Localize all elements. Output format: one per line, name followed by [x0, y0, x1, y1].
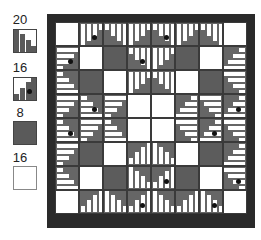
dark-block	[199, 142, 223, 166]
striped-block	[55, 142, 79, 166]
striped-block	[127, 70, 151, 94]
dot-icon	[236, 107, 241, 112]
striped-block	[55, 70, 79, 94]
dot-icon	[140, 203, 145, 208]
striped-block	[223, 94, 247, 118]
white-block	[55, 22, 79, 46]
striped-block	[127, 190, 151, 214]
striped-block	[55, 166, 79, 190]
white-block	[79, 166, 103, 190]
dot-icon	[68, 131, 73, 136]
white-block	[103, 142, 127, 166]
striped-block	[79, 94, 103, 118]
striped-block	[55, 118, 79, 142]
striped-block	[103, 190, 127, 214]
striped-block	[175, 190, 199, 214]
white-block	[199, 166, 223, 190]
white-block	[127, 118, 151, 142]
white-block	[175, 70, 199, 94]
striped-block	[175, 22, 199, 46]
striped-block	[55, 94, 79, 118]
striped-block	[103, 118, 127, 142]
dark-block	[175, 166, 199, 190]
dot-icon	[212, 131, 217, 136]
striped-block	[127, 46, 151, 70]
dot-icon	[236, 179, 241, 184]
dark-block	[103, 46, 127, 70]
white-block	[175, 142, 199, 166]
striped-block	[175, 118, 199, 142]
striped-block	[199, 94, 223, 118]
legend-label-20: 20	[0, 12, 40, 27]
striped-block	[223, 118, 247, 142]
dot-icon	[92, 35, 97, 40]
striped-block	[223, 166, 247, 190]
striped-block	[223, 46, 247, 70]
legend-label-16-white: 16	[0, 150, 40, 165]
striped-block	[79, 190, 103, 214]
striped-block	[151, 166, 175, 190]
quilt-grid	[55, 22, 247, 214]
white-block	[151, 94, 175, 118]
striped-block	[55, 46, 79, 70]
striped-block	[151, 46, 175, 70]
striped-block	[151, 190, 175, 214]
striped-block	[199, 190, 223, 214]
white-block	[151, 118, 175, 142]
dot-icon	[92, 107, 97, 112]
striped-block	[175, 94, 199, 118]
legend-swatch-striped-16	[13, 77, 37, 101]
striped-block	[151, 22, 175, 46]
striped-block	[199, 118, 223, 142]
white-block	[223, 22, 247, 46]
dark-block	[199, 70, 223, 94]
white-block	[127, 94, 151, 118]
striped-block	[127, 22, 151, 46]
dot-icon	[140, 59, 145, 64]
dot-icon	[68, 59, 73, 64]
legend-label-16-striped: 16	[0, 60, 40, 75]
dot-icon	[164, 179, 169, 184]
dark-block	[103, 166, 127, 190]
legend-dot-icon	[27, 89, 32, 94]
striped-block	[103, 22, 127, 46]
legend: 20 16 8 16	[0, 0, 46, 240]
striped-block	[199, 22, 223, 46]
white-block	[79, 46, 103, 70]
dot-icon	[164, 35, 169, 40]
striped-block	[223, 70, 247, 94]
striped-block	[79, 22, 103, 46]
white-block	[55, 190, 79, 214]
dark-block	[79, 70, 103, 94]
striped-block	[223, 142, 247, 166]
dot-icon	[212, 203, 217, 208]
striped-block	[103, 94, 127, 118]
white-block	[199, 46, 223, 70]
white-block	[103, 70, 127, 94]
legend-swatch-dark	[13, 121, 37, 145]
legend-swatch-white	[13, 166, 37, 190]
striped-block	[79, 118, 103, 142]
dark-block	[79, 142, 103, 166]
striped-block	[127, 166, 151, 190]
legend-swatch-striped-20	[13, 29, 37, 53]
white-block	[223, 190, 247, 214]
striped-block	[151, 142, 175, 166]
dark-block	[175, 46, 199, 70]
striped-block	[151, 70, 175, 94]
legend-label-8: 8	[0, 105, 40, 120]
striped-block	[127, 142, 151, 166]
